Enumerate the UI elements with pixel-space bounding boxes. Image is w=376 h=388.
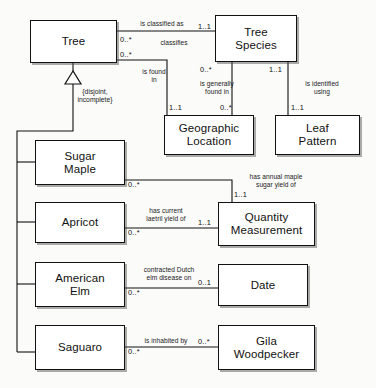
class-box-sugar-maple[interactable]: Sugar Maple [35,140,125,185]
generalization-triangle [65,71,81,84]
edge-sugar-maple-quantity [125,180,232,202]
class-box-date[interactable]: Date [218,264,308,306]
multiplicity-species-identified-using-source: 1..1 [269,66,282,74]
class-name-american-elm: American Elm [52,272,107,298]
class-name-gila-woodpecker: Gila Woodpecker [231,335,302,361]
multiplicity-tree-found-in-target: 1..1 [169,104,182,112]
multiplicity-species-identified-using-target: 1..1 [291,104,304,112]
edge-label-is-classified-as: is classified as [126,20,198,28]
class-box-geographic-location[interactable]: Geographic Location [164,115,254,155]
class-name-leaf-pattern: Leaf Pattern [296,122,340,148]
multiplicity-sugar-maple-quantity-source: 0..* [128,181,140,189]
multiplicity-saguaro-woodpecker-source: 0..* [128,348,140,356]
class-box-american-elm[interactable]: American Elm [35,262,125,307]
class-box-saguaro[interactable]: Saguaro [35,325,125,370]
multiplicity-sugar-maple-quantity-target: 1..1 [234,191,247,199]
multiplicity-apricot-quantity-target: 1..1 [198,219,211,227]
class-name-date: Date [248,279,279,292]
multiplicity-american-elm-date-target: 0..1 [198,279,211,287]
class-name-tree-species: Tree Species [232,26,280,52]
edge-label-is-found-in: is found in [134,68,174,83]
class-name-apricot: Apricot [59,216,102,229]
edge-label-is-generally-found-in: is generally found in [186,80,248,95]
class-name-quantity-measurement: Quantity Measurement [228,211,305,237]
multiplicity-species-found-in-source: 0..* [200,66,212,74]
class-name-saguaro: Saguaro [55,341,105,354]
multiplicity-species-found-in-target: 0..* [220,104,232,112]
edge-label-is-identified-using: is identified using [291,80,353,95]
class-box-leaf-pattern[interactable]: Leaf Pattern [275,115,360,155]
edge-label-has-current-laetril-yield-of: has current laetril yield of [132,207,200,222]
edge-label-contracted-dutch-elm-disease-on: contracted Dutch elm disease on [130,266,208,281]
class-name-sugar-maple: Sugar Maple [61,150,99,176]
edge-label-is-inhabited-by: is inhabited by [133,337,199,345]
class-name-geographic-location: Geographic Location [176,122,242,148]
class-box-tree-species[interactable]: Tree Species [215,15,297,62]
multiplicity-apricot-quantity-source: 0..* [128,229,140,237]
edge-label-has-annual-maple-sugar-yield-of: has annual maple sugar yield of [238,173,314,188]
uml-class-diagram-canvas: Tree Tree Species Geographic Location Le… [0,0,376,388]
generalization-constraint-text: {disjoint, incomplete} [62,88,128,104]
multiplicity-saguaro-woodpecker-target: 0..* [198,338,210,346]
class-box-apricot[interactable]: Apricot [35,202,125,243]
multiplicity-tree-classified-as-species-target: 1..1 [198,23,211,31]
multiplicity-american-elm-date-source: 0..* [128,289,140,297]
multiplicity-tree-classified-as-species-source: 0..* [120,36,132,44]
class-box-quantity-measurement[interactable]: Quantity Measurement [218,202,315,246]
class-box-gila-woodpecker[interactable]: Gila Woodpecker [218,325,315,370]
class-name-tree: Tree [59,35,89,48]
class-box-tree[interactable]: Tree [30,20,117,63]
edge-label-classifies: classifies [150,39,198,47]
multiplicity-tree-found-in-source: 0..* [120,51,132,59]
